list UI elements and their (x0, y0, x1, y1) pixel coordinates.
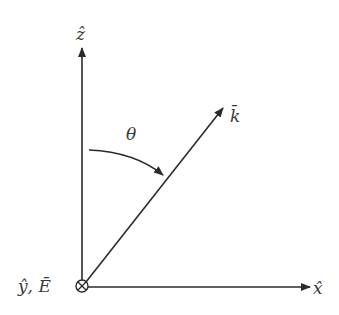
z-axis-label: ẑ (75, 24, 86, 44)
k-vector (86, 108, 223, 282)
theta-arc (89, 150, 163, 175)
x-axis-label: x̂ (313, 278, 323, 298)
origin-label: ŷ, Ē (17, 276, 51, 296)
into-page-icon (76, 280, 88, 292)
diagram-canvas: ẑ x̂ k̄ θ ŷ, Ē (0, 0, 339, 315)
theta-label: θ (126, 124, 136, 144)
k-vector-label: k̄ (230, 104, 240, 126)
